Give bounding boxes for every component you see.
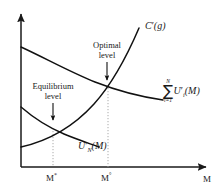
annotation-equilibrium-level: Equilibrium level: [22, 82, 84, 101]
equilibrium-level-line2: level: [22, 92, 84, 102]
optimal-level-line2: level: [78, 51, 136, 61]
annotation-optimal-level: Optimal level: [78, 41, 136, 60]
xtick-label-optimal: M°: [101, 172, 111, 183]
xtick-eq-sup: *: [54, 172, 57, 178]
sum-arg: (M): [185, 85, 200, 96]
economics-diagram: C′(g) N ∑ i=1 U′i(M) U′N(M) Optimal leve…: [0, 0, 224, 193]
curve-label-aggregate-utility: N ∑ i=1 U′i(M): [163, 79, 200, 104]
sigma-stack: N ∑ i=1: [163, 79, 173, 104]
xtick-eq-base: M: [46, 173, 54, 183]
curve-label-individual-utility: U′N(M): [78, 140, 107, 154]
x-axis-label: M: [203, 174, 211, 184]
xtick-label-equilibrium: M*: [46, 172, 57, 183]
xtick-opt-base: M: [101, 173, 109, 183]
sigma-lower-limit: i=1: [164, 98, 172, 104]
mc-base: C: [145, 20, 152, 31]
sum-body: U′i(M): [174, 85, 200, 98]
curve-label-marginal-cost: C′(g): [145, 20, 166, 31]
sum-base: U: [174, 85, 181, 96]
mc-arg: (g): [154, 20, 166, 31]
xtick-opt-sup: °: [109, 172, 111, 178]
iu-arg: (M): [92, 140, 107, 151]
